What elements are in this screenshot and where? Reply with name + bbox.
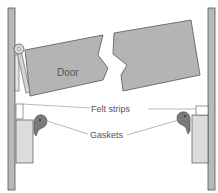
door-seal-diagram: Door Felt strips Gaskets	[0, 0, 218, 193]
gaskets-leader-right	[127, 119, 182, 135]
right-felt-strip	[196, 106, 208, 115]
gaskets-leader-left	[44, 120, 88, 134]
right-gasket-center	[184, 115, 186, 117]
door-right-piece	[113, 20, 200, 91]
right-gasket-icon	[177, 112, 190, 134]
door-label: Door	[57, 67, 79, 78]
door-left-piece	[25, 35, 108, 96]
left-door-post	[8, 8, 15, 190]
felt-strips-label: Felt strips	[91, 104, 131, 114]
left-stop-strip	[15, 55, 19, 91]
right-jamb-block	[192, 115, 208, 163]
left-gasket-icon	[34, 115, 47, 136]
left-jamb-block	[16, 120, 33, 163]
left-gasket-center	[39, 119, 41, 121]
hinge-pin-icon	[18, 48, 21, 51]
left-felt-strip	[16, 104, 23, 119]
felt-strips-leader-left	[23, 104, 90, 108]
right-door-post	[208, 8, 215, 190]
gaskets-label: Gaskets	[90, 130, 124, 140]
